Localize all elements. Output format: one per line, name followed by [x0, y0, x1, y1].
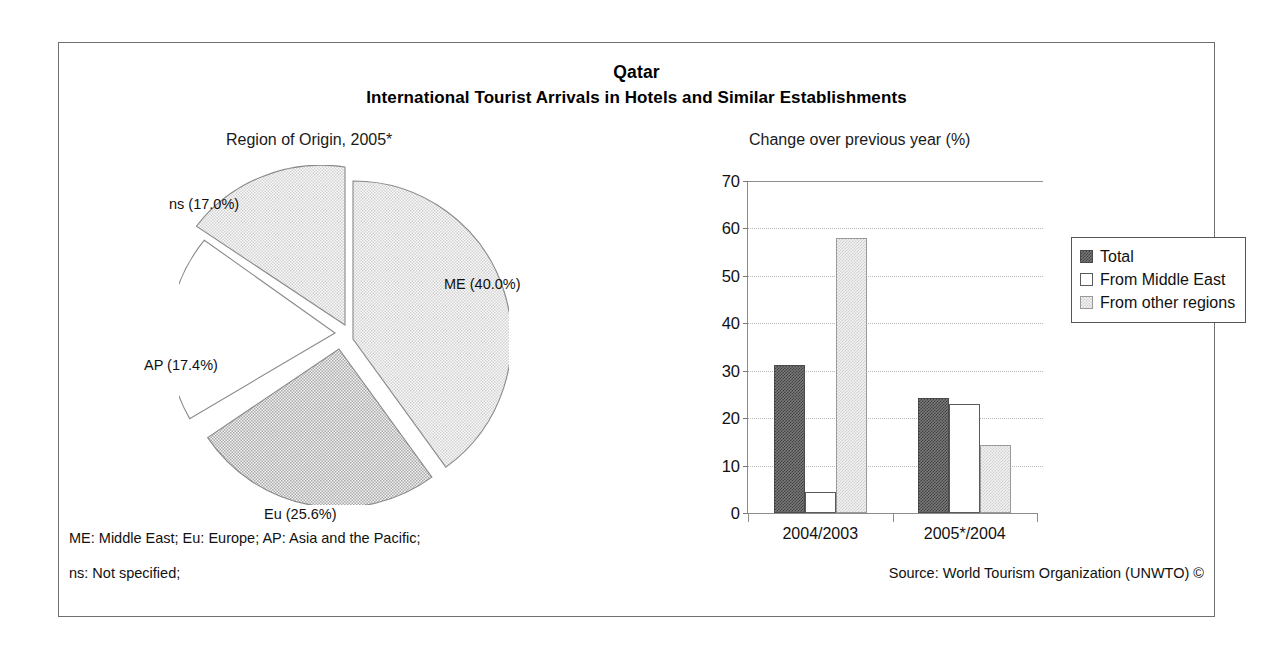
chart-main-title: International Tourist Arrivals in Hotels…: [59, 88, 1214, 108]
y-axis-tick-mark: [743, 371, 748, 372]
pie-chart-panel: ME (40.0%) Eu (25.6%) AP (17.4%) ns (17.…: [59, 151, 629, 551]
footnote-abbreviations: ME: Middle East; Eu: Europe; AP: Asia an…: [69, 530, 420, 546]
legend-label-middle-east: From Middle East: [1100, 271, 1225, 289]
bar-from-middle-east-2004-2003: [805, 492, 836, 513]
chart-legend: Total From Middle East From other region…: [1071, 237, 1246, 323]
bar-panel-title: Change over previous year (%): [749, 131, 970, 149]
gridline: [748, 323, 1043, 324]
chart-country-title: Qatar: [59, 62, 1214, 83]
y-axis-tick-label: 70: [722, 172, 740, 191]
y-axis-tick-mark: [743, 228, 748, 229]
y-axis-tick-label: 20: [722, 409, 740, 428]
pie-label-ns: ns (17.0%): [169, 196, 239, 212]
footnote-not-specified: ns: Not specified;: [69, 565, 180, 581]
x-axis-end-tick: [748, 513, 749, 522]
bar-from-middle-east-2005-2004: [949, 404, 980, 513]
y-axis-tick-label: 50: [722, 266, 740, 285]
y-axis-tick-label: 0: [731, 504, 740, 523]
pie-label-eu: Eu (25.6%): [264, 506, 337, 522]
x-axis-separator: [893, 513, 894, 522]
legend-swatch-middle-east: [1080, 273, 1093, 286]
legend-swatch-other-regions: [1080, 296, 1093, 309]
figure-frame: Qatar International Tourist Arrivals in …: [58, 42, 1215, 617]
bar-total-2004-2003: [774, 365, 805, 513]
y-axis-tick-mark: [743, 323, 748, 324]
pie-chart-svg: [179, 165, 509, 505]
source-credit: Source: World Tourism Organization (UNWT…: [889, 565, 1204, 581]
y-axis-tick-mark: [743, 418, 748, 419]
legend-label-total: Total: [1100, 248, 1134, 266]
legend-item: From Middle East: [1080, 268, 1235, 291]
bar-chart-panel: 010203040506070 2004/20032005*/2004 Tota…: [659, 151, 1219, 581]
plot-top-rule: [748, 181, 1043, 182]
y-axis-tick-label: 30: [722, 361, 740, 380]
legend-swatch-total: [1080, 250, 1093, 263]
y-axis-tick-label: 40: [722, 314, 740, 333]
legend-label-other-regions: From other regions: [1100, 294, 1235, 312]
y-axis-tick-label: 60: [722, 219, 740, 238]
y-axis-tick-mark: [743, 276, 748, 277]
y-axis-tick-mark: [743, 466, 748, 467]
x-axis-category-label: 2004/2003: [782, 525, 858, 543]
gridline: [748, 228, 1043, 229]
bar-from-other-regions-2004-2003: [836, 238, 867, 513]
x-axis-category-label: 2005*/2004: [924, 525, 1006, 543]
legend-item: From other regions: [1080, 291, 1235, 314]
y-axis-tick-mark: [743, 181, 748, 182]
x-axis-end-tick: [1037, 513, 1038, 522]
legend-item: Total: [1080, 245, 1235, 268]
bar-total-2005-2004: [918, 398, 949, 513]
bar-plot-area: 010203040506070 2004/20032005*/2004: [747, 181, 1037, 514]
pie-panel-title: Region of Origin, 2005*: [226, 131, 392, 149]
pie-label-ap: AP (17.4%): [144, 357, 218, 373]
y-axis-tick-label: 10: [722, 456, 740, 475]
gridline: [748, 276, 1043, 277]
pie-label-me: ME (40.0%): [444, 276, 521, 292]
bar-from-other-regions-2005-2004: [980, 445, 1011, 513]
